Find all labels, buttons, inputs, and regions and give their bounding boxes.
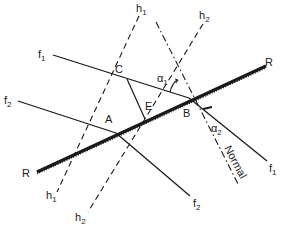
refraction-diagram: h1 h2 f1 f2 R R C E A B α1 α2 Normal f1 … — [0, 0, 282, 235]
label-point-e: E — [145, 100, 152, 112]
normal-line — [156, 22, 238, 184]
label-h1-lower: h1 — [46, 189, 57, 204]
ray-f1 — [53, 55, 267, 161]
segment-ce — [127, 79, 145, 119]
label-point-c: C — [115, 63, 123, 75]
label-alpha1: α1 — [157, 72, 168, 87]
wavefront-h1 — [57, 16, 139, 192]
label-r-right: R — [265, 56, 273, 68]
label-h1-upper: h1 — [136, 2, 147, 17]
label-f2-lower: f2 — [193, 197, 201, 212]
label-h2-upper: h2 — [199, 9, 210, 24]
label-h2-lower: h2 — [75, 211, 86, 226]
label-r-left: R — [22, 167, 30, 179]
angle-alpha2-arc — [203, 107, 212, 109]
label-f2-upper: f2 — [4, 94, 12, 109]
label-f1-lower: f1 — [269, 162, 277, 177]
angle-alpha1-arc — [170, 80, 177, 92]
label-point-a: A — [105, 113, 113, 125]
label-f1-upper: f1 — [38, 48, 46, 63]
label-point-b: B — [183, 107, 190, 119]
